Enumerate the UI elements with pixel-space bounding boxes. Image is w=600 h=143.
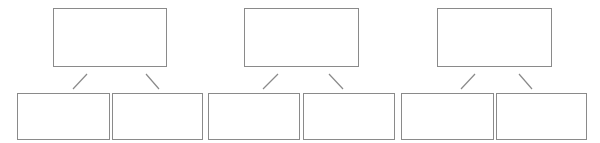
child-node-1-2 [112, 93, 203, 140]
child-node-3-1 [401, 93, 494, 140]
connector-line-2-1 [263, 74, 278, 89]
connector-line-1-2 [146, 74, 159, 89]
connector-line-1-1 [73, 74, 87, 89]
connector-line-3-2 [519, 74, 532, 89]
parent-node-3 [437, 8, 552, 67]
connector-line-2-2 [329, 74, 343, 89]
connector-line-3-1 [461, 74, 475, 89]
child-node-2-1 [208, 93, 300, 140]
child-node-2-2 [303, 93, 395, 140]
child-node-3-2 [496, 93, 587, 140]
parent-node-2 [244, 8, 359, 67]
child-node-1-1 [17, 93, 110, 140]
parent-node-1 [53, 8, 167, 67]
